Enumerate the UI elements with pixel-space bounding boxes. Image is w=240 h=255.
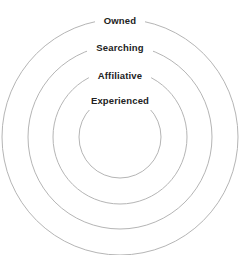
- ring-label-owned: Owned: [0, 13, 240, 30]
- ring-label-affiliative-text: Affiliative: [89, 68, 151, 85]
- ring-label-affiliative: Affiliative: [0, 68, 240, 85]
- ring-circle-third: [53, 70, 187, 204]
- ring-label-searching: Searching: [0, 40, 240, 57]
- rings-svg: [0, 0, 240, 255]
- ring-label-searching-text: Searching: [87, 40, 152, 57]
- ring-label-experienced: Experienced: [0, 93, 240, 110]
- ring-label-owned-text: Owned: [95, 13, 145, 30]
- ring-label-experienced-text: Experienced: [82, 93, 158, 110]
- concentric-circles-diagram: Owned Searching Affiliative Experienced: [0, 0, 240, 255]
